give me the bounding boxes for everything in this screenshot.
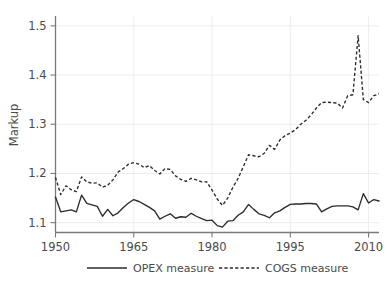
markup-line-chart: 1.11.21.31.41.5 19501965198019952010 Mar…	[0, 0, 387, 286]
x-tick-label: 1980	[197, 240, 226, 254]
x-tick-label: 1995	[276, 240, 305, 254]
x-tick-label: 1965	[119, 240, 148, 254]
x-tick-label: 2010	[354, 240, 383, 254]
x-axis-ticks	[56, 233, 369, 238]
x-tick-label: 1950	[41, 240, 70, 254]
y-axis-ticks	[51, 26, 56, 223]
chart-canvas: 1.11.21.31.41.5 19501965198019952010 Mar…	[0, 0, 387, 286]
x-axis-tick-labels: 19501965198019952010	[41, 240, 383, 254]
y-tick-label: 1.4	[28, 68, 46, 82]
legend-label-opex: OPEX measure	[133, 262, 214, 275]
chart-legend: OPEX measure COGS measure	[87, 262, 349, 275]
y-axis-title: Markup	[7, 104, 21, 147]
y-axis-tick-labels: 1.11.21.31.41.5	[28, 19, 46, 230]
y-tick-label: 1.3	[28, 117, 46, 131]
series-line-cogs-measure	[56, 36, 380, 206]
legend-label-cogs: COGS measure	[265, 262, 349, 275]
y-tick-label: 1.2	[28, 166, 46, 180]
y-tick-label: 1.1	[28, 216, 46, 230]
y-tick-label: 1.5	[28, 19, 46, 33]
